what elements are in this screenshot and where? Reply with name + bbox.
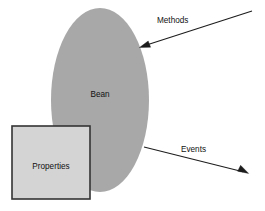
diagram-canvas: Bean Properties Methods Events [0, 0, 265, 211]
methods-label: Methods [157, 16, 188, 25]
bean-label: Bean [90, 90, 110, 99]
events-arrowhead-icon [238, 165, 249, 173]
events-label: Events [181, 145, 206, 154]
methods-arrowhead-icon [139, 41, 150, 48]
properties-label: Properties [32, 162, 69, 171]
diagram-svg: Bean Properties Methods Events [0, 0, 265, 211]
